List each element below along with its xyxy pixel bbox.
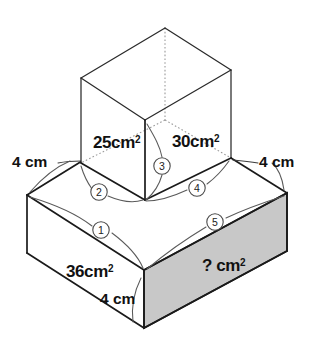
bottom-right-area-label: ? cm2 (202, 256, 246, 275)
marker-2: 2 (91, 184, 107, 200)
figure-svg: 1 2 3 4 5 25cm2 30cm2 36cm2 ? cm2 (0, 0, 311, 361)
marker-3: 3 (154, 158, 170, 174)
top-left-area-sup: 2 (135, 134, 141, 145)
bottom-left-area-label: 36cm2 (66, 262, 114, 281)
marker-3-label: 3 (159, 160, 165, 172)
dim-label-right: 4 cm (259, 153, 294, 170)
marker-5: 5 (207, 214, 223, 230)
bottom-left-area-sup: 2 (108, 263, 114, 274)
marker-1: 1 (93, 222, 109, 238)
top-left-area-label: 25cm2 (93, 133, 141, 152)
marker-5-label: 5 (212, 216, 218, 228)
top-right-area-sup: 2 (214, 133, 220, 144)
marker-1-label: 1 (98, 224, 104, 236)
marker-2-label: 2 (96, 186, 102, 198)
dim-label-left: 4 cm (12, 153, 47, 170)
dim-label-front: 4 cm (100, 290, 135, 307)
geometry-figure: 1 2 3 4 5 25cm2 30cm2 36cm2 ? cm2 (0, 0, 311, 361)
marker-4: 4 (189, 180, 205, 196)
bottom-right-area-sup: 2 (240, 257, 246, 268)
top-right-area-label: 30cm2 (172, 132, 220, 151)
marker-4-label: 4 (194, 182, 200, 194)
